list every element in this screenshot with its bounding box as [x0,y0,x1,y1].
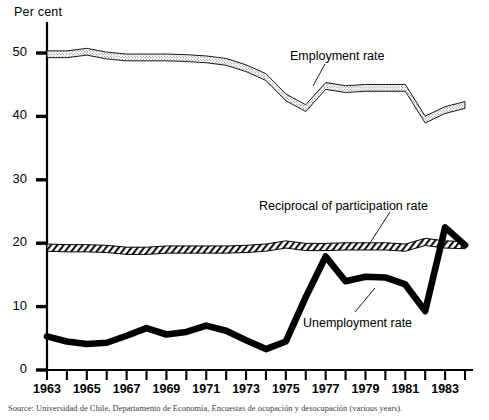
series-label-unemployment: Unemployment rate [303,316,412,330]
series-employment-rate [47,48,465,123]
y-tick-label-30: 30 [1,171,27,186]
leader-employment [313,64,325,86]
figure-container: Per cent 01020304050 1963196519671969197… [0,0,489,420]
y-tick-label-40: 40 [1,107,27,122]
leader-unemployment [355,288,375,312]
series-reciprocal-of-participation-rate [47,238,465,254]
x-tick-label-1983: 1983 [422,382,468,396]
y-tick-label-0: 0 [1,361,27,376]
series-label-participation: Reciprocal of participation rate [259,199,428,213]
series-label-employment: Employment rate [290,49,384,63]
source-note: Source: Universidad de Chile, Departamen… [8,404,402,413]
y-tick-label-20: 20 [1,234,27,249]
y-tick-label-10: 10 [1,298,27,313]
y-tick-label-50: 50 [1,44,27,59]
leader-participation [370,212,390,243]
